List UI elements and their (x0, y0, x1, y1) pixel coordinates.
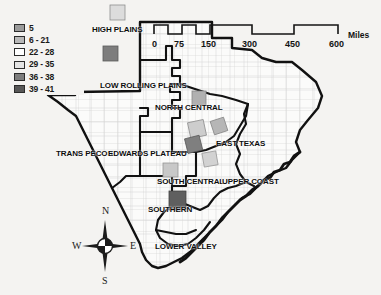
compass-rose: N S E W (72, 206, 138, 288)
legend-label-class-6: 39 - 41 (29, 85, 54, 94)
legend-item: 6 - 21 (14, 34, 84, 46)
legend-swatch-class-2 (14, 36, 25, 44)
legend-swatch-class-1 (14, 24, 25, 32)
scalebar-tick-300: 300 (242, 40, 257, 49)
legend-label-class-5: 36 - 38 (29, 73, 54, 82)
legend-item: 29 - 35 (14, 59, 84, 71)
scalebar-tick-150: 150 (201, 40, 216, 49)
value-marker (163, 163, 178, 177)
region-label-high-plains: HIGH PLAINS (92, 26, 142, 34)
legend-item: 5 (14, 22, 84, 34)
value-marker (185, 135, 203, 153)
legend-swatch-class-5 (14, 73, 25, 81)
scalebar-graphic (152, 20, 370, 40)
region-label-south-central: SOUTH CENTRAL (157, 178, 224, 186)
compass-label-east: E (130, 241, 136, 251)
region-label-trans-pecos: TRANS PECOS (56, 150, 113, 158)
value-marker (110, 5, 125, 20)
scalebar-tick-600: 600 (329, 40, 344, 49)
value-marker (202, 151, 218, 167)
region-label-lower-valley: LOWER VALLEY (155, 243, 217, 251)
region-label-southern: SOUTHERN (148, 206, 192, 214)
map-scalebar: Miles 0 75 150 300 450 600 (152, 20, 370, 54)
scalebar-tick-0: 0 (152, 40, 157, 49)
region-label-north-central: NORTH CENTRAL (155, 104, 223, 112)
region-label-low-rolling-plains: LOW ROLLING PLAINS (100, 82, 187, 90)
legend-swatch-class-6 (14, 85, 25, 93)
map-legend: 5 6 - 21 22 - 28 29 - 35 36 - 38 39 - 41 (14, 22, 84, 95)
legend-swatch-class-3 (14, 48, 25, 56)
legend-label-class-2: 6 - 21 (29, 36, 50, 45)
region-label-upper-coast: UPPER COAST (222, 178, 279, 186)
legend-label-class-1: 5 (29, 24, 34, 33)
compass-label-west: W (72, 241, 81, 251)
legend-item: 22 - 28 (14, 46, 84, 58)
compass-label-north: N (102, 206, 109, 216)
legend-label-class-3: 22 - 28 (29, 48, 54, 57)
scalebar-tick-75: 75 (174, 40, 184, 49)
region-label-edwards-plateau: EDWARDS PLATEAU (108, 150, 187, 158)
value-marker (103, 46, 118, 61)
region-label-east-texas: EAST TEXAS (216, 140, 265, 148)
texas-choropleth-map: 5 6 - 21 22 - 28 29 - 35 36 - 38 39 - 41… (0, 0, 381, 295)
legend-swatch-class-4 (14, 61, 25, 69)
scalebar-units-label: Miles (348, 30, 369, 40)
legend-label-class-4: 29 - 35 (29, 60, 54, 69)
scalebar-tick-450: 450 (285, 40, 300, 49)
compass-label-south: S (102, 276, 108, 286)
legend-item: 36 - 38 (14, 71, 84, 83)
compass-rose-icon (80, 218, 130, 274)
legend-item: 39 - 41 (14, 83, 84, 95)
